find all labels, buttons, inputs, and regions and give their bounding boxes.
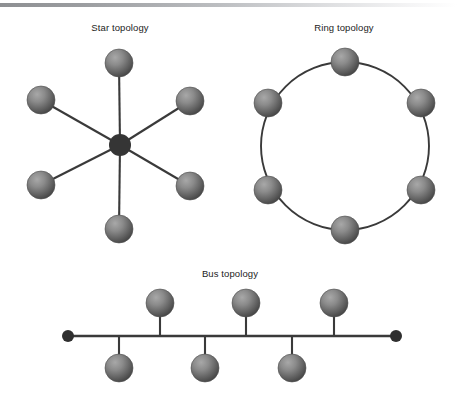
ring-topology-group: Ring topology bbox=[254, 22, 435, 244]
ring-node-top[interactable] bbox=[331, 48, 359, 76]
bus-node-top-1[interactable] bbox=[146, 289, 174, 317]
topology-figure: Star topology Ring topology bbox=[0, 0, 457, 402]
bus-node-bottom-2[interactable] bbox=[191, 354, 219, 382]
ring-connection-circle bbox=[261, 62, 429, 230]
bus-node-top-3[interactable] bbox=[320, 289, 348, 317]
bus-topology-group: Bus topology bbox=[62, 268, 402, 382]
ring-nodes-group bbox=[254, 48, 435, 244]
bus-terminator-left[interactable] bbox=[62, 330, 74, 342]
ring-node-lower-left[interactable] bbox=[254, 176, 282, 204]
bus-node-top-2[interactable] bbox=[232, 289, 260, 317]
star-topology-label: Star topology bbox=[91, 22, 148, 33]
bus-node-bottom-3[interactable] bbox=[278, 354, 306, 382]
star-node-upper-left[interactable] bbox=[27, 86, 55, 114]
bus-nodes-below-group bbox=[105, 354, 306, 382]
bus-terminator-right[interactable] bbox=[390, 330, 402, 342]
ring-node-upper-right[interactable] bbox=[407, 89, 435, 117]
star-node-top[interactable] bbox=[105, 49, 133, 77]
topology-diagram-canvas: Star topology Ring topology bbox=[0, 0, 457, 402]
star-node-lower-left[interactable] bbox=[27, 171, 55, 199]
star-node-lower-right[interactable] bbox=[176, 172, 204, 200]
bus-nodes-above-group bbox=[146, 289, 348, 317]
ring-node-lower-right[interactable] bbox=[407, 176, 435, 204]
star-node-bottom[interactable] bbox=[105, 215, 133, 243]
ring-node-bottom[interactable] bbox=[331, 216, 359, 244]
ring-topology-label: Ring topology bbox=[314, 22, 374, 33]
bus-node-bottom-1[interactable] bbox=[105, 354, 133, 382]
star-node-upper-right[interactable] bbox=[176, 87, 204, 115]
star-topology-group: Star topology bbox=[27, 22, 204, 243]
star-hub-node[interactable] bbox=[109, 134, 131, 156]
ring-node-upper-left[interactable] bbox=[254, 89, 282, 117]
bus-topology-label: Bus topology bbox=[202, 268, 258, 279]
